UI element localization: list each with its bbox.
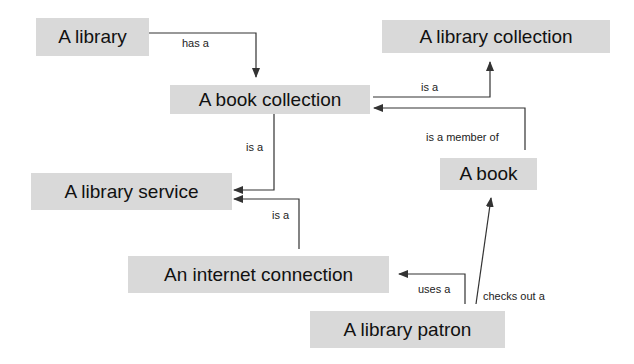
node-book: A book	[440, 158, 537, 190]
edge-internet-connection-is-library-service	[234, 199, 299, 249]
edge-label-is-a-library-service-1: is a	[246, 141, 263, 153]
node-library-service: A library service	[31, 173, 232, 210]
node-library: A library	[36, 18, 149, 56]
edge-label-checks-out-a: checks out a	[483, 290, 545, 302]
edge-label-uses-a: uses a	[418, 283, 450, 295]
edge-label-has-a: has a	[182, 37, 209, 49]
node-internet-connection: An internet connection	[128, 256, 389, 293]
edge-label-is-a-library-collection: is a	[421, 81, 438, 93]
node-library-collection: A library collection	[382, 20, 610, 53]
edge-patron-checks-out-book	[476, 198, 491, 304]
node-library-patron: A library patron	[310, 311, 505, 348]
edge-label-is-a-member-of: is a member of	[426, 131, 499, 143]
edge-book-member-of-book-collection	[374, 108, 525, 150]
node-book-collection: A book collection	[170, 85, 370, 114]
edge-label-is-a-library-service-2: is a	[272, 209, 289, 221]
